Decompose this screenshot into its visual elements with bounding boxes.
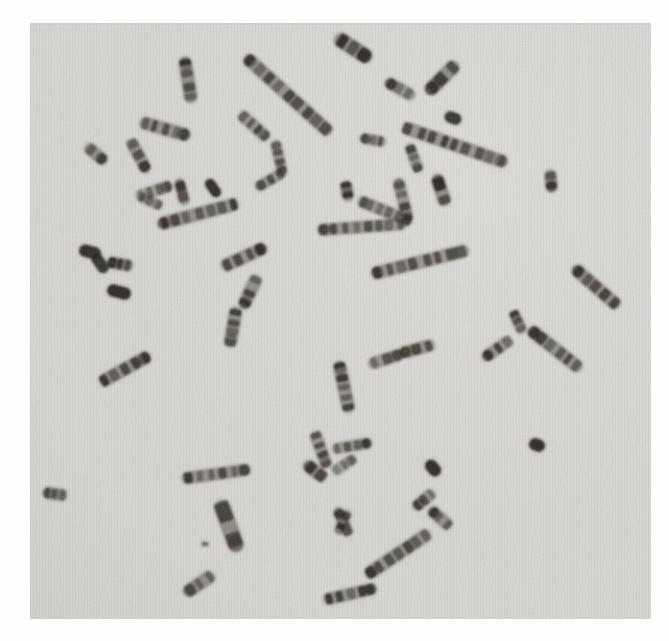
photo-print-page [0,0,669,641]
photo-grain [30,23,651,619]
metaphase-spread-photo [0,0,669,641]
